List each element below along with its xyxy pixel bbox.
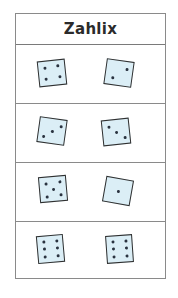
pip <box>55 239 58 242</box>
pip <box>43 247 46 250</box>
pip <box>125 254 128 257</box>
die-six-icon <box>36 234 65 264</box>
pip <box>112 255 115 258</box>
die-three-icon <box>101 118 132 147</box>
pip <box>59 193 62 196</box>
pip <box>44 78 47 81</box>
pip <box>111 76 114 79</box>
pip <box>56 246 59 249</box>
dice-table: Zahlix <box>15 13 166 279</box>
die-four-icon <box>37 59 68 88</box>
pip <box>42 135 45 138</box>
die-three-icon <box>36 116 67 146</box>
pip <box>107 126 110 129</box>
pip <box>44 182 47 185</box>
pip <box>123 136 126 139</box>
pip <box>125 246 128 249</box>
pip <box>124 239 127 242</box>
pip <box>115 131 118 134</box>
table-title: Zahlix <box>64 20 117 38</box>
pip <box>125 68 128 71</box>
pip <box>52 188 55 191</box>
dice-row-4 <box>16 221 165 280</box>
pip <box>57 254 60 257</box>
pip <box>58 180 61 183</box>
pip <box>56 64 59 67</box>
pip <box>59 125 62 128</box>
pip <box>112 247 115 250</box>
pip <box>58 75 61 78</box>
pip <box>46 195 49 198</box>
die-one-icon <box>102 176 134 206</box>
pip <box>44 255 47 258</box>
pip <box>51 130 54 133</box>
pip <box>111 240 114 243</box>
pip <box>117 190 120 193</box>
dice-row-1 <box>16 44 165 104</box>
die-two-icon <box>103 58 134 88</box>
pip <box>42 240 45 243</box>
dice-row-3 <box>16 162 165 222</box>
pip <box>43 67 46 70</box>
die-six-icon <box>105 234 134 264</box>
die-five-icon <box>38 175 68 203</box>
dice-row-2 <box>16 103 165 163</box>
table-header: Zahlix <box>16 14 165 45</box>
